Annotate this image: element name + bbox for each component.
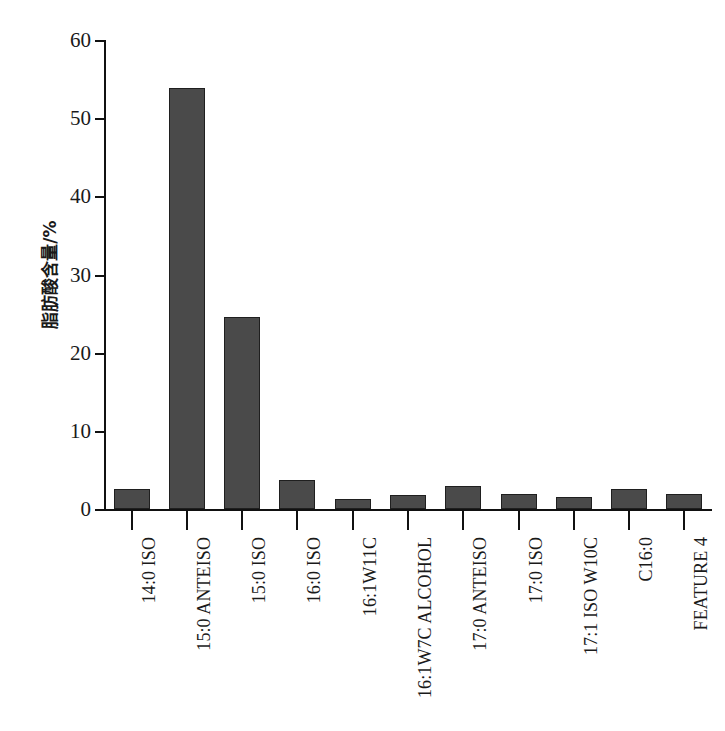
x-tick-label: 16:0 ISO — [305, 537, 323, 603]
x-tick-mark — [462, 511, 464, 530]
bar — [169, 88, 205, 509]
y-tick-label: 0 — [81, 499, 92, 520]
y-tick-label: 30 — [70, 264, 91, 285]
x-tick-mark — [186, 511, 188, 530]
y-tick-label: 20 — [70, 342, 91, 363]
bar — [445, 486, 481, 509]
bar — [114, 489, 150, 509]
x-tick-label: 15:0 ISO — [250, 537, 268, 603]
x-tick-label: 17:0 ANTEISO — [471, 537, 489, 651]
plot-area: 0102030405060 14:0 ISO15:0 ANTEISO15:0 I… — [104, 40, 712, 511]
bar — [224, 317, 260, 509]
bar — [556, 497, 592, 509]
x-tick-mark — [296, 511, 298, 530]
x-tick-mark — [573, 511, 575, 530]
bar — [390, 495, 426, 509]
x-tick-mark — [407, 511, 409, 530]
y-axis-label: 脂肪酸含量/% — [36, 175, 61, 375]
x-tick-label: 16:1W7C ALCOHOL — [416, 537, 434, 698]
bar — [611, 489, 647, 509]
x-tick-label: 17:0 ISO — [527, 537, 545, 603]
x-tick-label: C16:0 — [637, 537, 655, 582]
x-tick-label: 16:1W11C — [361, 537, 379, 616]
bar — [279, 480, 315, 509]
y-tick-label: 10 — [70, 420, 91, 441]
x-tick-label: FEATURE 4 — [692, 537, 710, 630]
x-tick-mark — [241, 511, 243, 530]
x-tick-mark — [352, 511, 354, 530]
y-tick-mark — [95, 353, 104, 355]
x-tick-label: 14:0 ISO — [140, 537, 158, 603]
x-tick-mark — [131, 511, 133, 530]
x-tick-label: 15:0 ANTEISO — [195, 537, 213, 651]
x-tick-mark — [628, 511, 630, 530]
y-tick-label: 50 — [70, 108, 91, 129]
x-tick-mark — [518, 511, 520, 530]
y-tick-mark — [95, 118, 104, 120]
y-tick-label: 40 — [70, 186, 91, 207]
y-tick-mark — [95, 40, 104, 42]
bar — [501, 494, 537, 509]
y-tick-mark — [95, 509, 104, 511]
bar — [335, 499, 371, 509]
y-tick-mark — [95, 275, 104, 277]
x-tick-label: 17:1 ISO W10C — [582, 537, 600, 655]
y-axis-line — [104, 40, 106, 511]
y-tick-label: 60 — [70, 30, 91, 51]
y-tick-mark — [95, 196, 104, 198]
bar — [666, 494, 702, 509]
bar-chart-figure: 脂肪酸含量/% 0102030405060 14:0 ISO15:0 ANTEI… — [0, 0, 725, 731]
y-tick-mark — [95, 431, 104, 433]
x-tick-mark — [683, 511, 685, 530]
